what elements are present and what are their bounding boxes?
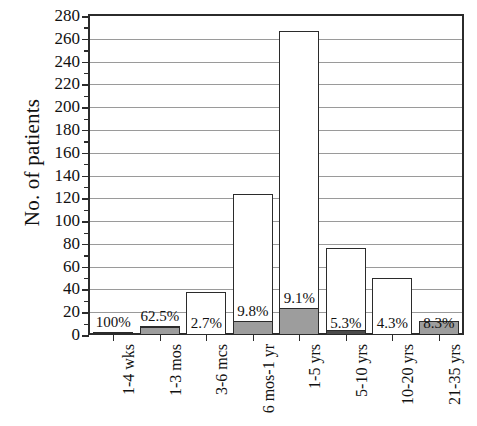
bar-subgroup xyxy=(233,321,273,335)
bar-percent-label: 9.8% xyxy=(237,304,268,319)
bar-subgroup xyxy=(140,327,180,335)
y-tick-label: 280 xyxy=(38,7,80,24)
y-tick-label: 220 xyxy=(38,75,80,92)
y-tick-label: 0 xyxy=(38,326,80,343)
x-tick-mark xyxy=(299,335,300,341)
y-tick-label: 120 xyxy=(38,189,80,206)
x-tick-label: 21-35 yrs xyxy=(446,344,464,405)
x-tick-mark xyxy=(439,335,440,341)
y-tick-label: 20 xyxy=(38,303,80,320)
bar-percent-label: 5.3% xyxy=(330,316,361,331)
x-tick-label: 3-6 mcs xyxy=(213,344,231,395)
x-tick-mark xyxy=(206,335,207,341)
y-tick-label: 100 xyxy=(38,212,80,229)
y-tick-mark xyxy=(82,335,89,337)
x-tick-mark xyxy=(346,335,347,341)
x-tick-mark xyxy=(392,335,393,341)
bar-percent-label: 62.5% xyxy=(140,309,179,324)
y-tick-label: 200 xyxy=(38,98,80,115)
x-tick-label: 1-3 mos xyxy=(167,344,185,396)
bar-percent-label: 8.3% xyxy=(423,316,454,331)
bar-percent-label: 9.1% xyxy=(284,291,315,306)
x-tick-label: 1-5 yrs xyxy=(306,344,324,389)
y-tick-label: 40 xyxy=(38,280,80,297)
x-tick-mark xyxy=(113,335,114,341)
bar-percent-label: 2.7% xyxy=(191,316,222,331)
bar-column[interactable] xyxy=(140,326,180,335)
x-tick-mark xyxy=(253,335,254,341)
x-tick-label: 10-20 yrs xyxy=(399,344,417,405)
chart-figure: No. of patients 020406080100120140160180… xyxy=(0,0,477,426)
x-tick-mark xyxy=(160,335,161,341)
y-tick-label: 140 xyxy=(38,167,80,184)
bar-percent-label: 4.3% xyxy=(377,316,408,331)
x-tick-label: 5-10 yrs xyxy=(353,344,371,397)
y-tick-label: 80 xyxy=(38,235,80,252)
bar-subgroup xyxy=(279,308,319,335)
x-tick-label: 1-4 wks xyxy=(120,344,138,395)
bar-percent-label: 100% xyxy=(96,315,131,330)
y-tick-label: 260 xyxy=(38,30,80,47)
bar-series-group: 100%62.5%2.7%9.8%9.1%5.3%4.3%8.3% xyxy=(90,16,462,335)
y-tick-label: 240 xyxy=(38,53,80,70)
y-tick-label: 60 xyxy=(38,258,80,275)
x-tick-label: 6 mos-1 yr xyxy=(260,344,278,413)
y-tick-label: 160 xyxy=(38,144,80,161)
y-tick-label: 180 xyxy=(38,121,80,138)
